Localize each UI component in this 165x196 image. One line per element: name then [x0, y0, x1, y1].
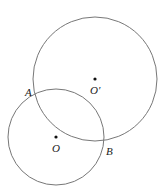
label-o-prime: O′	[90, 84, 101, 96]
two-intersecting-circles-diagram: A B O O′	[0, 0, 165, 196]
label-a: A	[24, 86, 32, 98]
label-b: B	[106, 145, 113, 157]
center-point-o	[54, 135, 57, 138]
center-point-o-prime	[93, 77, 96, 80]
label-o: O	[52, 142, 60, 154]
